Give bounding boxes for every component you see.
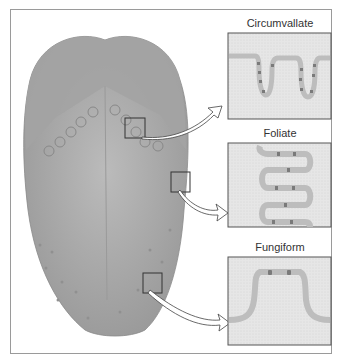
panel-label-fungiform: Fungiform <box>225 241 335 253</box>
tongue-diagram <box>0 0 342 364</box>
fungiform-panel <box>228 257 331 345</box>
tongue-illustration <box>24 36 190 336</box>
panel-label-foliate: Foliate <box>225 127 335 139</box>
foliate-panel <box>228 143 331 227</box>
panel-label-circumvallate: Circumvallate <box>225 17 335 29</box>
circumvallate-panel <box>228 33 331 119</box>
